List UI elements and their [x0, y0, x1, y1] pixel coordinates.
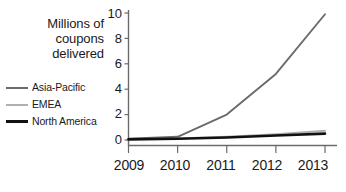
x-tick-label-2013: 2013: [290, 158, 336, 172]
x-tick-label-2012: 2012: [244, 158, 290, 172]
x-tick-label-2010: 2010: [152, 158, 198, 172]
x-tick-label-2011: 2011: [198, 158, 244, 172]
x-tick-label-2009: 2009: [106, 158, 152, 172]
coupons-delivered-line-chart: Millions of coupons delivered Asia-Pacif…: [0, 0, 346, 192]
x-axis-tick-labels: 2009 2010 2011 2012 2013: [0, 0, 346, 192]
